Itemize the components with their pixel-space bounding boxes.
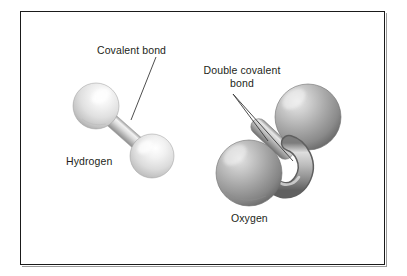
double-covalent-bond-leader-line-upper [233, 94, 268, 141]
hydrogen-atom-1 [73, 83, 119, 129]
figure-canvas: Covalent bond Double covalentbond Hydrog… [0, 0, 407, 276]
molecule-illustration [0, 0, 407, 276]
oxygen-atom-2 [216, 140, 282, 206]
label-double-covalent-bond-line1: Double covalent [204, 64, 281, 76]
covalent-bond-leader-line [131, 57, 156, 120]
hydrogen-atom-2 [130, 134, 174, 178]
label-oxygen: Oxygen [231, 212, 268, 225]
label-double-covalent-bond-line2: bond [230, 77, 254, 89]
label-double-covalent-bond: Double covalentbond [195, 64, 289, 89]
label-covalent-bond: Covalent bond [97, 44, 166, 57]
label-hydrogen: Hydrogen [66, 155, 112, 168]
